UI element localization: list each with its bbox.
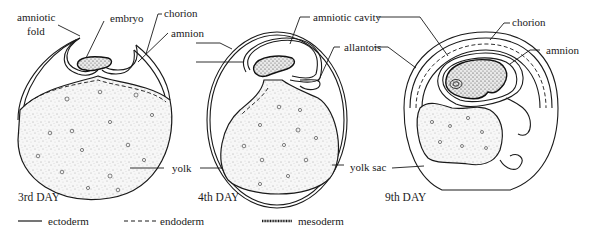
legend-label-mesoderm: mesoderm bbox=[298, 215, 344, 227]
leader-amniotic-fold bbox=[58, 25, 80, 36]
leader-embryo bbox=[86, 21, 104, 58]
embryo-day3 bbox=[77, 57, 111, 71]
embryo-day4 bbox=[254, 56, 295, 76]
label-amnion-day9: amnion bbox=[546, 44, 579, 56]
legend: ectoderm endoderm mesoderm bbox=[18, 215, 344, 227]
yolk-day3 bbox=[18, 76, 172, 199]
allantois-day4 bbox=[300, 80, 320, 90]
leader-chorion-day9 bbox=[490, 23, 510, 40]
leader-amniotic-cavity-day9 bbox=[378, 17, 448, 56]
allantois-day9-lower bbox=[500, 155, 522, 170]
legend-label-endoderm: endoderm bbox=[160, 215, 204, 227]
yolk-day4 bbox=[221, 80, 339, 194]
label-chorion-day3: chorion bbox=[164, 7, 198, 19]
leader-chorion-day3 bbox=[146, 14, 162, 54]
allantois-day9 bbox=[506, 98, 530, 135]
caption-day4: 4th DAY bbox=[198, 191, 240, 203]
leader-chorion-day4 bbox=[196, 43, 232, 49]
label-amniotic-fold-1: amniotic bbox=[17, 11, 56, 23]
caption-day9: 9th DAY bbox=[385, 191, 427, 203]
legend-label-ectoderm: ectoderm bbox=[48, 215, 89, 227]
stage-day4: amniotic cavity allantois yolk sac 4th D… bbox=[196, 11, 386, 208]
caption-day3: 3rd DAY bbox=[18, 191, 61, 203]
label-yolk: yolk bbox=[172, 162, 192, 174]
stage-day9: chorion amnion 9th DAY bbox=[374, 16, 579, 203]
label-chorion-day9: chorion bbox=[512, 16, 546, 28]
leader-amnion-day3 bbox=[138, 33, 168, 62]
stage-day3: amniotic fold embryo chorion amnion yolk… bbox=[17, 7, 240, 203]
label-amnion-day3: amnion bbox=[171, 27, 204, 39]
label-yolk-sac: yolk sac bbox=[350, 161, 386, 173]
yolk-day9 bbox=[417, 103, 502, 164]
label-amniotic-fold-2: fold bbox=[27, 25, 45, 37]
label-embryo: embryo bbox=[110, 12, 144, 24]
leader-yolk-sac-day9 bbox=[392, 166, 424, 168]
embryo-membranes-diagram: amniotic fold embryo chorion amnion yolk… bbox=[0, 0, 600, 238]
label-amniotic-cavity: amniotic cavity bbox=[313, 11, 382, 23]
